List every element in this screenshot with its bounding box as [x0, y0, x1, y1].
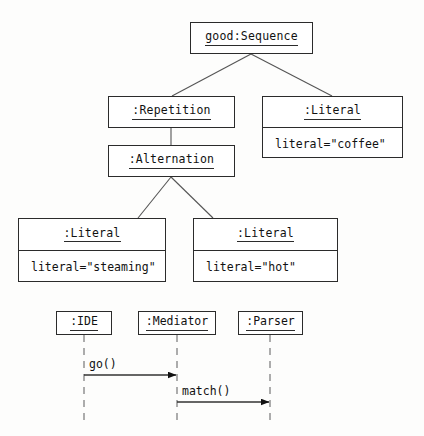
edge-alternation-to-literal-hot: [171, 177, 213, 218]
object-node-name: :Literal: [263, 97, 402, 127]
edge-root-to-repetition: [172, 54, 251, 96]
lifeline-head-parser: :Parser: [238, 311, 303, 335]
message-label-go: go(): [89, 357, 117, 371]
object-node-good-sequence: good:Sequence: [190, 22, 313, 54]
object-node-alternation: :Alternation: [108, 145, 235, 177]
message-label-match: match(): [182, 384, 230, 398]
object-node-name: :Repetition: [109, 97, 234, 127]
object-node-name: :Literal: [194, 219, 337, 250]
object-node-literal-coffee: :Literal literal="coffee": [262, 96, 403, 158]
uml-diagram-canvas: good:Sequence :Repetition :Literal liter…: [0, 0, 424, 436]
object-node-repetition: :Repetition: [108, 96, 235, 128]
lifeline-head-mediator: :Mediator: [138, 311, 216, 335]
object-node-name: good:Sequence: [191, 23, 312, 53]
object-node-name: :Alternation: [109, 146, 234, 176]
edge-root-to-literal-coffee: [251, 54, 332, 96]
object-node-attribute: literal="coffee": [263, 127, 402, 159]
edge-alternation-to-literal-steaming: [138, 177, 171, 218]
object-node-name: :Literal: [19, 219, 165, 250]
object-node-attribute: literal="hot": [194, 250, 337, 283]
object-node-literal-hot: :Literal literal="hot": [193, 218, 338, 282]
object-node-literal-steaming: :Literal literal="steaming": [18, 218, 166, 282]
lifeline-head-ide: :IDE: [56, 311, 112, 335]
object-node-attribute: literal="steaming": [19, 250, 165, 283]
